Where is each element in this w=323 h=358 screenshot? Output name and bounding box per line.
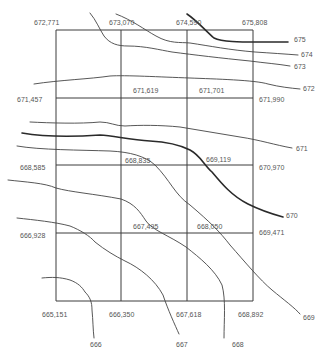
spot-height: 671,457	[17, 96, 42, 103]
spot-height: 675,808	[242, 19, 267, 26]
contour-label: 673	[294, 63, 306, 70]
contour-670	[22, 133, 283, 217]
contour-label: 670	[286, 212, 298, 219]
spot-height: 671,619	[133, 87, 158, 94]
contour-675	[187, 14, 288, 42]
spot-height-labels: 672,771 673,070 674,590 675,808 671,619 …	[17, 19, 284, 318]
spot-height: 669,119	[206, 156, 231, 163]
contour-672	[34, 76, 300, 89]
spot-height: 668,585	[20, 164, 45, 171]
spot-height: 674,590	[176, 19, 201, 26]
contour-label: 672	[303, 85, 315, 92]
contour-666	[42, 277, 94, 338]
spot-height: 668,835	[125, 157, 150, 164]
spot-height: 668,892	[238, 311, 263, 318]
spot-height: 670,970	[259, 164, 284, 171]
contour-674	[116, 14, 298, 55]
spot-height: 667,618	[176, 311, 201, 318]
contour-label: 666	[90, 341, 102, 348]
contour-label: 675	[294, 36, 306, 43]
contour-map: 672,771 673,070 674,590 675,808 671,619 …	[0, 0, 323, 358]
contour-label: 668	[232, 341, 244, 348]
contour-label: 674	[301, 51, 313, 58]
spot-height: 665,151	[42, 311, 67, 318]
spot-height: 667,495	[133, 223, 158, 230]
contour-label: 669	[303, 314, 315, 321]
spot-height: 671,701	[199, 87, 224, 94]
survey-grid	[56, 30, 253, 301]
contour-label: 667	[176, 341, 188, 348]
spot-height: 672,771	[34, 19, 59, 26]
spot-height: 666,350	[109, 311, 134, 318]
spot-height: 666,928	[20, 232, 45, 239]
contour-label: 671	[296, 145, 308, 152]
spot-height: 671,990	[259, 96, 284, 103]
spot-height: 668,050	[197, 223, 222, 230]
contour-669	[17, 146, 300, 314]
spot-height: 669,471	[259, 229, 284, 236]
spot-height: 673,070	[109, 19, 134, 26]
contour-lines	[8, 13, 300, 338]
